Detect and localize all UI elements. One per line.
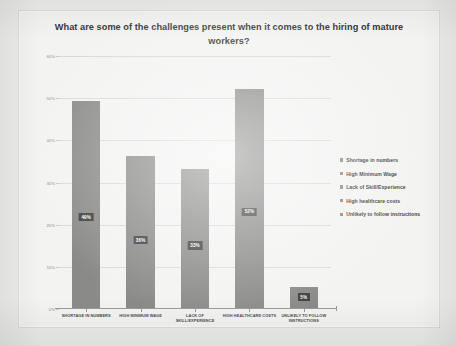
legend-item-label: Lack of Skill/Experience (346, 184, 406, 190)
bar[interactable]: 49% (72, 101, 100, 308)
bar-value-label: 5% (298, 293, 310, 301)
legend-item[interactable]: High Minimum Wage (340, 171, 456, 177)
y-axis-tick-label: 10% (46, 265, 55, 270)
bar-slot: 36%HIGH MINIMUM WAGE (113, 55, 167, 308)
y-axis-tick-label: 20% (46, 223, 55, 228)
bar[interactable]: 52% (235, 89, 263, 308)
legend-item[interactable]: Lack of Skill/Experience (340, 184, 456, 190)
bar-value-label: 33% (188, 241, 203, 249)
presentation-slide: What are some of the challenges present … (18, 10, 440, 328)
bar-slot: 49%SHORTAGE IN NUMBERS (59, 55, 113, 308)
legend-swatch-icon (340, 158, 343, 161)
x-axis-category-label: HIGH HEALTHCARE COSTS (222, 313, 276, 318)
x-axis-category-label: SHORTAGE IN NUMBERS (59, 313, 113, 318)
bar-slot: 5%UNLIKELY TO FOLLOW INSTRUCTIONS (277, 55, 331, 308)
bar[interactable]: 36% (126, 156, 154, 308)
legend-item-label: Shortage in numbers (346, 157, 398, 163)
y-axis-tick-label: 50% (46, 96, 55, 101)
x-axis-tick-mark (86, 308, 87, 312)
x-axis-category-label: UNLIKELY TO FOLLOW INSTRUCTIONS (277, 313, 331, 323)
slide-photo-background: What are some of the challenges present … (0, 0, 456, 346)
chart-legend: Shortage in numbersHigh Minimum WageLack… (340, 157, 456, 225)
legend-swatch-icon (340, 172, 343, 175)
chart-title: What are some of the challenges present … (53, 21, 405, 48)
bar-value-label: 36% (133, 236, 148, 244)
bar-slot: 33%LACK OF SKILL/EXPERIENCE (168, 55, 222, 308)
legend-swatch-icon (340, 199, 343, 202)
legend-item[interactable]: Shortage in numbers (340, 157, 456, 163)
chart-plot-area: 60%50%40%30%20%10%0% 49%SHORTAGE IN NUMB… (59, 56, 331, 309)
x-axis-tick-mark (304, 308, 305, 312)
legend-swatch-icon (340, 213, 343, 216)
bar-value-label: 52% (242, 208, 257, 216)
x-axis-category-label: HIGH MINIMUM WAGE (113, 313, 167, 318)
x-axis-tick-mark (249, 308, 250, 312)
legend-item[interactable]: Unlikely to follow instructions (340, 211, 456, 217)
x-axis-tick-mark (141, 308, 142, 312)
x-axis-category-label: LACK OF SKILL/EXPERIENCE (168, 313, 222, 323)
legend-item-label: High healthcare costs (346, 198, 400, 204)
legend-swatch-icon (340, 185, 343, 188)
y-axis-tick-label: 40% (46, 138, 55, 143)
bar[interactable]: 33% (181, 169, 209, 308)
legend-item[interactable]: High healthcare costs (340, 198, 456, 204)
bar-slot: 52%HIGH HEALTHCARE COSTS (222, 55, 276, 308)
x-axis-line (55, 308, 337, 309)
legend-item-label: High Minimum Wage (346, 171, 397, 177)
y-axis-tick-label: 30% (46, 181, 55, 186)
bar-value-label: 49% (79, 213, 94, 221)
legend-item-label: Unlikely to follow instructions (346, 211, 420, 217)
y-axis-tick-mark (56, 309, 59, 310)
y-axis-tick-label: 60% (46, 54, 55, 59)
x-axis-tick-mark (195, 308, 196, 312)
bar[interactable]: 5% (290, 287, 318, 308)
